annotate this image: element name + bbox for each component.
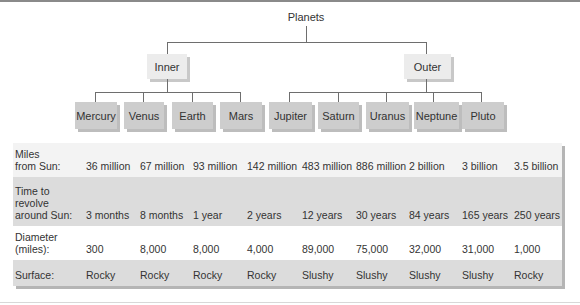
table-cell: 75,000: [356, 243, 388, 255]
table-cell: 12 years: [302, 209, 342, 221]
table-cell: 300: [86, 243, 104, 255]
bottom-rule: [0, 302, 580, 303]
connector: [167, 42, 168, 54]
connector: [289, 92, 481, 93]
table-cell: 8 months: [140, 209, 183, 221]
table-cell: 84 years: [409, 209, 449, 221]
table-cell: 3.5 billion: [514, 160, 558, 172]
row-header: Time to revolve around Sun:: [15, 185, 72, 221]
table-cell: Slushy: [462, 269, 494, 281]
root-node-planets: Planets: [280, 11, 332, 23]
table-cell: 36 million: [86, 160, 130, 172]
connector: [95, 92, 241, 93]
table-cell: 8,000: [140, 243, 166, 255]
table-cell: 67 million: [140, 160, 184, 172]
row-header: Miles from Sun:: [15, 148, 61, 172]
connector: [289, 92, 290, 102]
table-cell: 2 years: [247, 209, 281, 221]
table-cell: 1,000: [514, 243, 540, 255]
connector: [240, 92, 241, 102]
table-cell: 89,000: [302, 243, 334, 255]
table-cell: Rocky: [140, 269, 169, 281]
connector: [167, 79, 168, 92]
table-cell: 250 years: [514, 209, 560, 221]
planet-node-venus: Venus: [124, 102, 164, 129]
table-cell: Slushy: [409, 269, 441, 281]
table-cell: Rocky: [247, 269, 276, 281]
table-row-surface: Surface: Rocky Rocky Rocky Rocky Slushy …: [13, 260, 562, 286]
connector: [433, 92, 434, 102]
table-row-revolution-time: Time to revolve around Sun: 3 months 8 m…: [13, 177, 562, 226]
connector: [167, 42, 427, 43]
table-cell: 3 months: [86, 209, 129, 221]
table-cell: Rocky: [193, 269, 222, 281]
connector: [426, 79, 427, 92]
row-header: Surface:: [15, 269, 54, 281]
group-node-outer: Outer: [404, 54, 451, 79]
group-node-inner: Inner: [147, 54, 187, 79]
table-cell: 886 million: [356, 160, 406, 172]
planet-node-mars: Mars: [220, 102, 262, 129]
top-rule: [0, 0, 580, 2]
row-header: Diameter (miles):: [15, 231, 58, 255]
table-cell: 93 million: [193, 160, 237, 172]
table-cell: 2 billion: [409, 160, 445, 172]
table-row-diameter: Diameter (miles): 300 8,000 8,000 4,000 …: [13, 226, 562, 260]
table-cell: 31,000: [462, 243, 494, 255]
planet-node-uranus: Uranus: [366, 102, 409, 129]
planet-node-neptune: Neptune: [414, 102, 459, 129]
table-cell: Slushy: [356, 269, 388, 281]
table-cell: 165 years: [462, 209, 508, 221]
connector: [192, 92, 193, 102]
connector: [426, 42, 427, 54]
planet-facts-table: Miles from Sun: 36 million 67 million 93…: [13, 143, 562, 286]
planet-node-saturn: Saturn: [318, 102, 359, 129]
connector: [95, 92, 96, 102]
table-cell: 4,000: [247, 243, 273, 255]
table-cell: 8,000: [193, 243, 219, 255]
table-cell: 30 years: [356, 209, 396, 221]
table-cell: 3 billion: [462, 160, 498, 172]
table-row-miles-from-sun: Miles from Sun: 36 million 67 million 93…: [13, 143, 562, 177]
table-cell: 483 million: [302, 160, 352, 172]
table-cell: 32,000: [409, 243, 441, 255]
planet-node-pluto: Pluto: [462, 102, 504, 129]
connector: [143, 92, 144, 102]
connector: [481, 92, 482, 102]
connector: [338, 92, 339, 102]
table-cell: Rocky: [86, 269, 115, 281]
planet-node-jupiter: Jupiter: [269, 102, 312, 129]
table-cell: 142 million: [247, 160, 297, 172]
table-cell: Slushy: [302, 269, 334, 281]
connector: [306, 26, 307, 42]
table-cell: Rocky: [514, 269, 543, 281]
connector: [386, 92, 387, 102]
planet-node-mercury: Mercury: [75, 102, 117, 129]
table-cell: 1 year: [193, 209, 222, 221]
planet-node-earth: Earth: [172, 102, 213, 129]
